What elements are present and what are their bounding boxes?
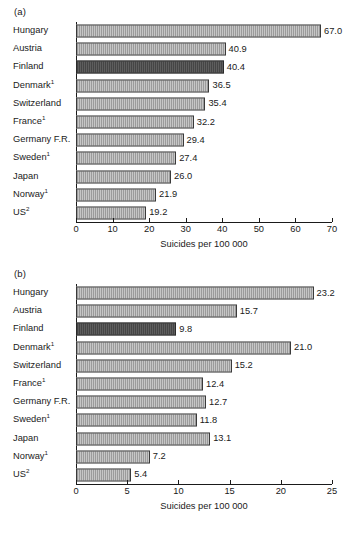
bar-row: Norway17.2: [0, 448, 355, 466]
bar-row: Hungary23.2: [0, 284, 355, 302]
bar-row: Austria40.9: [0, 40, 355, 58]
bar-track: 19.2: [76, 206, 332, 219]
bar-value-label: 21.9: [156, 190, 177, 199]
x-axis-tick: [230, 480, 231, 484]
bar-value-label: 29.4: [184, 136, 205, 145]
category-footnote-marker: 1: [42, 114, 45, 121]
bar-track: 15.2: [76, 359, 332, 372]
bar-rows-a: Hungary67.0Austria40.9Finland40.4Denmark…: [0, 22, 355, 222]
bar-track: 23.2: [76, 287, 332, 300]
bar-track: 21.0: [76, 341, 332, 354]
category-footnote-marker: 1: [47, 151, 50, 158]
bar-row: Sweden127.4: [0, 149, 355, 167]
bar-row: Switzerland15.2: [0, 357, 355, 375]
bar: [76, 468, 131, 481]
bar-value-label: 67.0: [321, 26, 342, 35]
bar: [76, 116, 194, 129]
x-axis-tick-label: 0: [73, 487, 78, 496]
category-footnote-marker: 1: [51, 78, 54, 85]
x-axis-tick: [186, 218, 187, 222]
bar-track: 36.5: [76, 79, 332, 92]
bar-value-label: 5.4: [131, 470, 147, 479]
bar-value-label: 12.7: [206, 398, 227, 407]
bar-track: 12.7: [76, 396, 332, 409]
x-axis-tick-label: 5: [125, 487, 130, 496]
bar: [76, 359, 232, 372]
bar-value-label: 19.2: [146, 208, 167, 217]
bar: [76, 396, 206, 409]
category-footnote-marker: 1: [45, 187, 48, 194]
x-axis-tick-label: 20: [144, 225, 154, 234]
x-axis-line-b: [76, 484, 332, 485]
x-axis-title-a: Suicides per 100 000: [76, 239, 332, 249]
bar: [76, 323, 176, 336]
bar-value-label: 11.8: [197, 416, 217, 425]
bar: [76, 432, 210, 445]
x-axis-tick: [113, 218, 114, 222]
x-axis-tick-label: 25: [327, 487, 337, 496]
bar-row: Switzerland35.4: [0, 95, 355, 113]
bar: [76, 43, 226, 56]
bar-row: Finland40.4: [0, 58, 355, 76]
x-axis-tick-label: 60: [290, 225, 300, 234]
x-axis-tick-label: 50: [254, 225, 264, 234]
bar-value-label: 32.2: [194, 117, 215, 126]
bar-value-label: 27.4: [176, 154, 197, 163]
bar-row: France132.2: [0, 113, 355, 131]
x-axis-tick: [332, 480, 333, 484]
x-axis-tick-label: 40: [217, 225, 227, 234]
bar-track: 12.4: [76, 378, 332, 391]
bar: [76, 79, 209, 92]
chart-panel-b: (b) Hungary23.2Austria15.7Finland9.8Denm…: [0, 262, 355, 539]
bar-track: 26.0: [76, 170, 332, 183]
x-axis-tick-label: 10: [107, 225, 117, 234]
x-axis-tick: [222, 218, 223, 222]
bar: [76, 378, 203, 391]
x-axis-tick: [76, 218, 77, 222]
bar-row: Austria15.7: [0, 302, 355, 320]
x-axis-tick: [332, 218, 333, 222]
bar: [76, 414, 197, 427]
x-axis-tick: [127, 480, 128, 484]
category-footnote-marker: 2: [26, 205, 29, 212]
bar-track: 9.8: [76, 323, 332, 336]
bar-track: 5.4: [76, 468, 332, 481]
bar-value-label: 21.0: [291, 343, 312, 352]
bar-row: US219.2: [0, 204, 355, 222]
bar-track: 67.0: [76, 25, 332, 38]
bar-track: 11.8: [76, 414, 332, 427]
bar-value-label: 15.2: [232, 361, 253, 370]
x-axis-line-a: [76, 222, 332, 223]
bar-track: 32.2: [76, 116, 332, 129]
panel-label-a: (a): [14, 6, 26, 17]
x-axis-tick: [281, 480, 282, 484]
bar: [76, 152, 176, 165]
bar-value-label: 35.4: [205, 99, 226, 108]
panel-label-b: (b): [14, 268, 26, 279]
bar: [76, 305, 237, 318]
bar-rows-b: Hungary23.2Austria15.7Finland9.8Denmark1…: [0, 284, 355, 484]
bar-value-label: 40.9: [226, 45, 247, 54]
bar-track: 29.4: [76, 134, 332, 147]
bar-track: 7.2: [76, 450, 332, 463]
figure-root: (a) Hungary67.0Austria40.9Finland40.4Den…: [0, 0, 355, 539]
bar: [76, 25, 321, 38]
bar-track: 13.1: [76, 432, 332, 445]
x-axis-tick: [149, 218, 150, 222]
bar-track: 40.9: [76, 43, 332, 56]
x-axis-tick: [295, 218, 296, 222]
bar-value-label: 12.4: [203, 379, 224, 388]
bar-row: Norway121.9: [0, 186, 355, 204]
category-footnote-marker: 1: [42, 376, 45, 383]
bar-row: Japan26.0: [0, 168, 355, 186]
x-axis-tick-label: 70: [327, 225, 337, 234]
bar-row: Japan13.1: [0, 430, 355, 448]
x-axis-title-b: Suicides per 100 000: [76, 501, 332, 511]
bar-value-label: 13.1: [210, 434, 231, 443]
bar: [76, 341, 291, 354]
bar: [76, 97, 205, 110]
bar-value-label: 23.2: [314, 288, 335, 297]
category-footnote-marker: 1: [51, 340, 54, 347]
x-axis-tick-label: 10: [173, 487, 183, 496]
bar-row: Sweden111.8: [0, 411, 355, 429]
